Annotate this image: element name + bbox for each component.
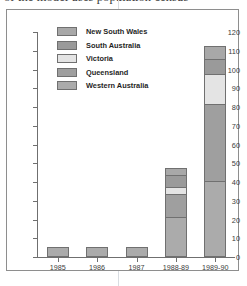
- y-tick-label-120: 120: [216, 28, 240, 37]
- bar-segment-1989-90-south-australia: [204, 59, 226, 75]
- bar-segment-1989-90-western-australia: [204, 181, 226, 257]
- y-tick-0: [33, 257, 38, 258]
- legend-item-new-south-wales: New South Wales: [57, 25, 148, 39]
- chart-title-text: of the model uses population census: [4, 0, 188, 5]
- y-tick-40: [33, 182, 38, 183]
- bar-segment-1988-89-south-australia: [165, 175, 187, 187]
- legend-label: South Australia: [86, 41, 140, 50]
- bar-segment-1989-90-new-south-wales: [204, 46, 226, 60]
- x-tick-1986: [97, 258, 98, 262]
- x-tick-1985: [58, 258, 59, 262]
- x-tick-1988-89: [176, 258, 177, 262]
- legend-item-western-australia: Western Australia: [57, 79, 148, 93]
- chart-title-clipped: of the model uses population census: [0, 0, 247, 9]
- y-tick-50: [33, 163, 38, 164]
- y-tick-60: [33, 145, 38, 146]
- bar-segment-1988-89-victoria: [165, 187, 187, 196]
- legend-label: Queensland: [86, 68, 128, 77]
- x-tick-label-1988-89: 1988-89: [156, 263, 196, 272]
- bar-segment-1988-89-western-australia: [165, 217, 187, 257]
- bar-1988-89: [165, 169, 187, 257]
- x-axis-line: [37, 257, 235, 258]
- x-tick-1987: [137, 258, 138, 262]
- bar-segment-1986-western-australia: [86, 247, 108, 257]
- x-tick-label-1987: 1987: [117, 263, 157, 272]
- legend-label: Victoria: [86, 54, 113, 63]
- x-tick-1989-90: [215, 258, 216, 262]
- bar-segment-1989-90-queensland: [204, 104, 226, 182]
- bar-1986: [86, 248, 108, 257]
- legend-swatch-western-australia: [57, 81, 77, 90]
- bar-1987: [126, 248, 148, 257]
- y-tick-10: [33, 238, 38, 239]
- x-tick-label-1989-90: 1989-90: [195, 263, 235, 272]
- chart-figure: of the model uses population census 0102…: [0, 0, 247, 286]
- bar-segment-1985-western-australia: [47, 247, 69, 257]
- y-tick-20: [33, 220, 38, 221]
- chart-legend: New South WalesSouth AustraliaVictoriaQu…: [57, 25, 148, 93]
- y-tick-30: [33, 201, 38, 202]
- y-tick-100: [33, 70, 38, 71]
- legend-item-queensland: Queensland: [57, 66, 148, 80]
- bar-segment-1988-89-new-south-wales: [165, 168, 187, 177]
- legend-label: New South Wales: [86, 27, 147, 36]
- legend-swatch-victoria: [57, 54, 77, 63]
- y-tick-110: [33, 51, 38, 52]
- legend-item-victoria: Victoria: [57, 52, 148, 66]
- legend-label: Western Australia: [86, 81, 148, 90]
- legend-swatch-new-south-wales: [57, 27, 77, 36]
- bar-1989-90: [204, 47, 226, 257]
- bar-segment-1989-90-victoria: [204, 74, 226, 105]
- y-tick-120: [33, 32, 38, 33]
- y-tick-90: [33, 88, 38, 89]
- legend-swatch-south-australia: [57, 41, 77, 50]
- legend-item-south-australia: South Australia: [57, 39, 148, 53]
- plot-area: 0102030405060708090100110120 19851986198…: [7, 10, 240, 270]
- x-tick-label-1985: 1985: [38, 263, 78, 272]
- legend-swatch-queensland: [57, 68, 77, 77]
- bar-segment-1987-western-australia: [126, 247, 148, 257]
- y-tick-80: [33, 107, 38, 108]
- bar-segment-1988-89-queensland: [165, 194, 187, 218]
- bar-1985: [47, 248, 69, 257]
- y-tick-70: [33, 126, 38, 127]
- chart-frame: 0102030405060708090100110120 19851986198…: [6, 9, 239, 271]
- x-tick-label-1986: 1986: [77, 263, 117, 272]
